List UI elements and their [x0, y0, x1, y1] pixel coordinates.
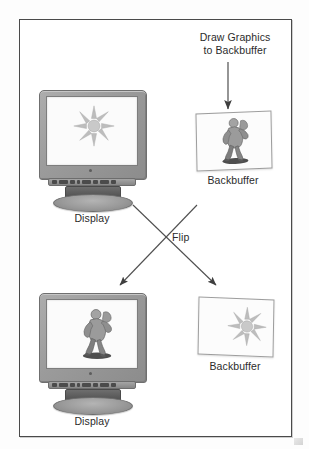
character-icon	[211, 115, 258, 167]
draw-graphics-title-line1: Draw Graphics	[183, 31, 287, 44]
sun-icon	[73, 105, 115, 147]
backbuffer-surface	[195, 111, 272, 172]
power-led	[89, 372, 92, 375]
monitor-controls	[48, 381, 136, 389]
character-icon	[71, 305, 121, 363]
power-led	[89, 169, 92, 172]
backbuffer-surface	[198, 296, 275, 357]
monitor-screen	[46, 299, 138, 369]
sun-icon	[227, 306, 268, 348]
display-bottom-label: Display	[39, 415, 145, 428]
diagram-canvas: Draw Graphics to Backbuffer	[0, 0, 309, 449]
monitor-controls	[48, 178, 136, 186]
backbuffer-bottom-label: Backbuffer	[198, 360, 272, 373]
monitor-base	[53, 397, 133, 415]
monitor-base	[53, 194, 133, 212]
monitor-screen	[46, 96, 138, 166]
flip-label: Flip	[172, 231, 189, 244]
backbuffer-top-label: Backbuffer	[196, 174, 270, 187]
draw-graphics-title-line2: to Backbuffer	[183, 44, 287, 57]
page-corner-mark	[294, 438, 303, 445]
display-top-label: Display	[39, 212, 145, 225]
